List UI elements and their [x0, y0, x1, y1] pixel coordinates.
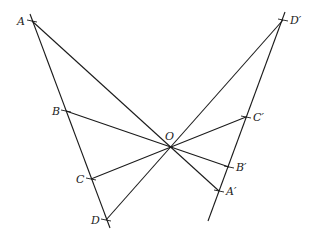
label-a: A [16, 15, 25, 28]
homothety-diagram: A B C D O D′ C′ B′ A′ [0, 0, 318, 237]
line-dp-cp-bp-ap [208, 12, 285, 221]
label-o: O [165, 130, 174, 143]
label-c: C [76, 173, 85, 186]
segment-c-cp [91, 117, 246, 179]
label-b: B [51, 105, 60, 118]
label-dp: D′ [289, 14, 302, 27]
label-ap: A′ [225, 185, 237, 198]
point-ticks [27, 19, 288, 221]
label-cp: C′ [253, 111, 264, 124]
segment-b-bp [66, 111, 229, 167]
tick-bp [224, 166, 234, 168]
line-abcd [30, 14, 110, 228]
label-bp: B′ [235, 161, 247, 174]
label-d: D [90, 214, 100, 227]
